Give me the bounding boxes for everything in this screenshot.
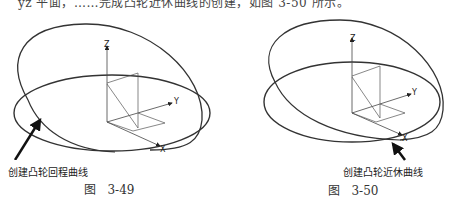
figure-3-50-drawing xyxy=(225,0,449,165)
axis-x-label: X xyxy=(160,145,165,154)
figure-3-50-caption: 图 3-50 xyxy=(328,181,378,198)
axis-y-label: Y xyxy=(174,97,179,106)
figure-3-49-caption: 图 3-49 xyxy=(84,180,134,197)
figure-3-49-annotation: 创建凸轮回程曲线 xyxy=(8,164,88,179)
axis-z-label: Z xyxy=(104,40,109,49)
axis-z-label: Z xyxy=(350,34,355,43)
figure-3-50-annotation: 创建凸轮近休曲线 xyxy=(343,164,423,179)
axis-x-label: X xyxy=(402,134,407,143)
figure-3-49-drawing xyxy=(0,0,230,160)
axis-y-label: Y xyxy=(412,88,417,97)
